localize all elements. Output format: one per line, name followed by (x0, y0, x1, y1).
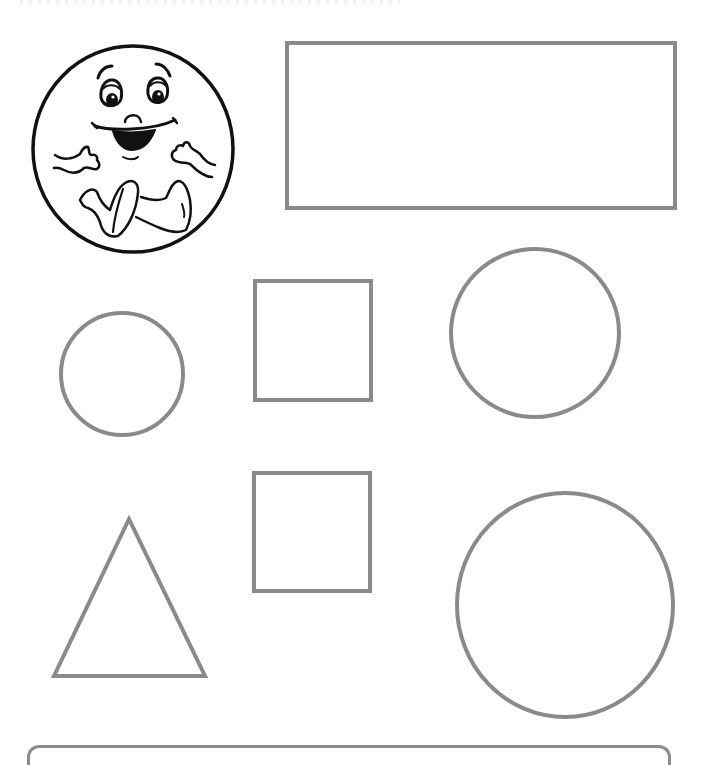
square-shape-2 (254, 473, 370, 591)
triangle-shape (54, 519, 205, 676)
rectangle-shape (287, 43, 675, 208)
small-circle-shape (61, 313, 183, 435)
left-eye-icon (101, 80, 122, 107)
medium-circle-shape (451, 249, 619, 417)
large-circle-shape (457, 493, 673, 717)
mascot-face (33, 46, 233, 252)
square-shape-1 (255, 281, 371, 400)
bottom-answer-box (27, 745, 671, 765)
right-eye-icon (148, 78, 168, 104)
